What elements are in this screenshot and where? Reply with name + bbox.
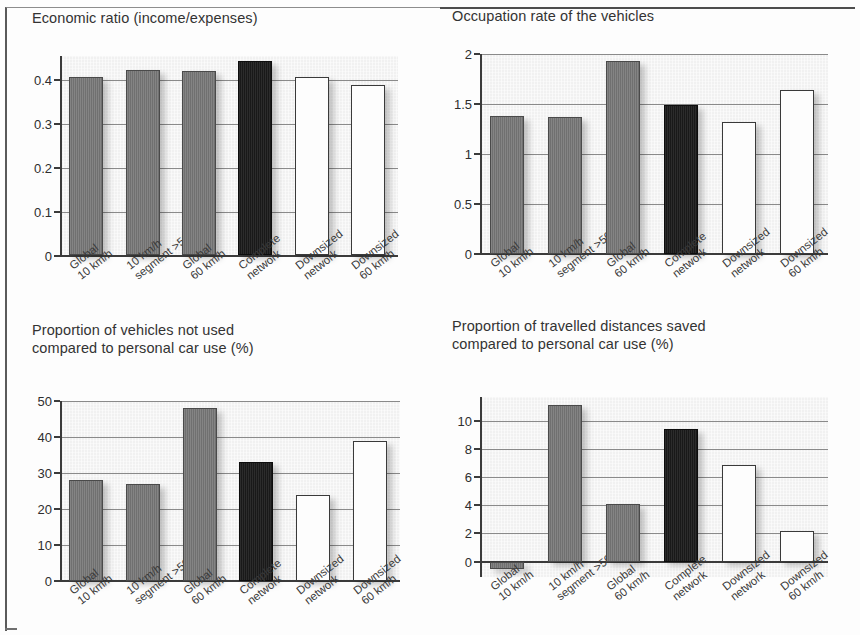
bar <box>664 105 698 254</box>
y-axis-tick-label: 1 <box>434 146 472 161</box>
gridline <box>60 124 398 125</box>
y-axis-tick-label: 8 <box>434 442 472 457</box>
y-axis <box>480 397 482 577</box>
y-axis-tick-label: 4 <box>434 498 472 513</box>
y-axis-tick-label: 0.4 <box>14 72 52 87</box>
y-axis-tick-label: 0.1 <box>14 204 52 219</box>
gridline <box>60 212 398 213</box>
bar <box>126 70 160 256</box>
y-axis-tick-label: 2 <box>434 46 472 61</box>
gridline <box>60 437 400 438</box>
chart-occupation-rate: Occupation rate of the vehicles 00.511.5… <box>436 8 856 323</box>
y-axis-tick-label: 0.5 <box>434 196 472 211</box>
y-axis-tick-label: 0.3 <box>14 116 52 131</box>
gridline <box>480 421 828 422</box>
bar <box>664 429 698 561</box>
bar <box>183 408 217 581</box>
y-axis-tick-label: 50 <box>14 394 52 409</box>
y-axis <box>60 401 62 581</box>
gridline <box>480 533 828 534</box>
y-axis-tick-label: 0 <box>434 246 472 261</box>
bar <box>780 531 814 562</box>
y-axis-tick-label: 30 <box>14 466 52 481</box>
y-axis-tick-label: 0 <box>434 554 472 569</box>
gridline <box>60 168 398 169</box>
y-axis-tick-label: 10 <box>434 413 472 428</box>
y-axis <box>480 54 482 254</box>
chart-travelled-distances-saved: Proportion of travelled distances saved … <box>436 318 856 628</box>
gridline <box>480 204 828 205</box>
y-axis <box>60 56 62 256</box>
gridline <box>480 449 828 450</box>
y-axis-tick-label: 20 <box>14 502 52 517</box>
bar <box>548 405 582 561</box>
bar <box>606 504 640 562</box>
chart-economic-ratio: Economic ratio (income/expenses) 00.10.2… <box>14 10 434 325</box>
gridline <box>480 104 828 105</box>
gridline <box>60 401 400 402</box>
y-axis-tick-label: 2 <box>434 526 472 541</box>
y-axis-tick-label: 0 <box>14 248 52 263</box>
gridline <box>60 509 400 510</box>
y-axis-tick-label: 0.2 <box>14 160 52 175</box>
bar <box>722 465 756 562</box>
gridline <box>480 54 828 55</box>
bar <box>490 116 524 254</box>
chart-title: Proportion of vehicles not used compared… <box>32 322 434 357</box>
figure-page: Economic ratio (income/expenses) 00.10.2… <box>0 0 860 635</box>
bar <box>722 122 756 254</box>
y-axis-tick-label: 0 <box>14 574 52 589</box>
chart-title: Occupation rate of the vehicles <box>452 8 856 26</box>
gridline <box>480 154 828 155</box>
y-axis-tick-label: 1.5 <box>434 96 472 111</box>
gridline <box>60 473 400 474</box>
bar <box>238 61 272 255</box>
bar <box>351 85 385 255</box>
chart-title: Economic ratio (income/expenses) <box>32 10 434 28</box>
y-axis-tick-label: 40 <box>14 430 52 445</box>
bar <box>548 117 582 254</box>
gridline <box>480 505 828 506</box>
bar <box>182 71 216 256</box>
bar <box>295 77 329 255</box>
chart-vehicles-not-used: Proportion of vehicles not used compared… <box>14 322 434 632</box>
bar <box>780 90 814 254</box>
bar <box>353 441 387 581</box>
gridline <box>60 80 398 81</box>
gridline <box>480 477 828 478</box>
chart-grid: Economic ratio (income/expenses) 00.10.2… <box>0 0 860 635</box>
chart-title: Proportion of travelled distances saved … <box>452 318 856 353</box>
bar <box>69 77 103 256</box>
y-axis-tick-label: 10 <box>14 538 52 553</box>
y-axis-tick-label: 6 <box>434 470 472 485</box>
bar <box>606 61 640 254</box>
